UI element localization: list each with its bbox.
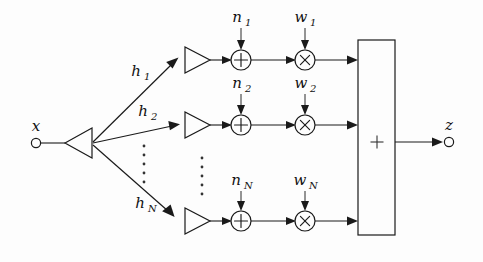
channel-label-h1: h 1 (131, 62, 150, 82)
branch-N-noise-arrowhead (237, 201, 245, 211)
h1-subscript: 1 (144, 71, 150, 82)
input-group: x (31, 117, 92, 158)
branch-2-weight-arrowhead (301, 105, 309, 115)
source-triangle (65, 128, 92, 158)
branch-2-weight-label: w 2 (295, 74, 317, 94)
combiner-group (358, 40, 395, 235)
ellipsis-dot (201, 166, 204, 169)
ellipsis-dot (201, 193, 204, 196)
ellipsis-dot (201, 157, 204, 160)
branch-row-N: n N w N (185, 171, 358, 234)
ellipsis-dot (143, 154, 146, 157)
output-label-z: z (444, 116, 453, 134)
ellipsis-dot (143, 172, 146, 175)
branch-2-amplifier-triangle (185, 112, 210, 138)
nN-base: n (231, 171, 241, 189)
hN-base: h (135, 194, 145, 212)
ellipsis-dot (201, 184, 204, 187)
w2-subscript: 2 (309, 83, 316, 94)
w2-base: w (295, 74, 308, 92)
input-terminal-circle (31, 138, 40, 147)
n1-base: n (232, 8, 242, 26)
output-arrowhead (432, 138, 443, 147)
h2-subscript: 2 (150, 111, 157, 122)
hN-subscript: N (147, 203, 158, 214)
ellipsis-dot (143, 181, 146, 184)
wN-subscript: N (308, 180, 319, 191)
vertical-ellipsis-left (143, 145, 146, 184)
branch-row-1: n 1 w 1 (185, 8, 358, 73)
wN-base: w (294, 171, 307, 189)
branch-2-noise-arrowhead (237, 105, 245, 115)
nN-subscript: N (243, 180, 254, 191)
branch-N-noise-label: n N (231, 171, 254, 191)
n1-subscript: 1 (245, 17, 251, 28)
channel-label-group: h 1 h 2 h N (131, 62, 158, 214)
output-group: z (395, 116, 454, 147)
branch-1-noise-arrowhead (237, 40, 245, 50)
branch-1-weight-label: w 1 (295, 8, 317, 28)
branch-N-weight-arrowhead (301, 201, 309, 211)
fanout-arrowhead-branch-2 (168, 121, 180, 130)
branch-row-2: n 2 w 2 (185, 74, 358, 138)
fanout-arrowhead-branch-N (162, 205, 175, 218)
branch-1-arrowhead-combiner-in (347, 56, 358, 65)
ellipsis-dot (201, 175, 204, 178)
ellipsis-dot (143, 145, 146, 148)
branch-2-noise-label: n 2 (232, 74, 251, 94)
output-terminal-circle (444, 137, 453, 146)
branch-2-arrowhead-combiner-in (347, 121, 358, 130)
branch-N-amplifier-triangle (185, 208, 210, 234)
fanout-line-branch-2 (93, 126, 172, 143)
channel-label-h2: h 2 (138, 102, 157, 122)
branch-N-weight-label: w N (294, 171, 319, 191)
w1-base: w (295, 8, 308, 26)
signal-flow-diagram: x h 1 h 2 h N (0, 0, 483, 262)
fanout-line-branch-N (93, 145, 168, 211)
n2-subscript: 2 (244, 83, 251, 94)
n2-base: n (232, 74, 242, 92)
input-label-x: x (32, 117, 41, 135)
branch-N-arrowhead-combiner-in (347, 217, 358, 226)
ellipsis-dot (143, 163, 146, 166)
w1-subscript: 1 (310, 17, 316, 28)
h1-base: h (131, 62, 141, 80)
fanout-arrowhead-branch-1 (166, 58, 178, 69)
branch-1-amplifier-triangle (185, 47, 210, 73)
block-diagram-canvas: x h 1 h 2 h N (0, 0, 483, 262)
branch-1-weight-arrowhead (301, 40, 309, 50)
branch-1-noise-label: n 1 (232, 8, 251, 28)
channel-label-hN: h N (135, 194, 158, 214)
h2-base: h (138, 102, 148, 120)
vertical-ellipsis-right (201, 157, 204, 196)
